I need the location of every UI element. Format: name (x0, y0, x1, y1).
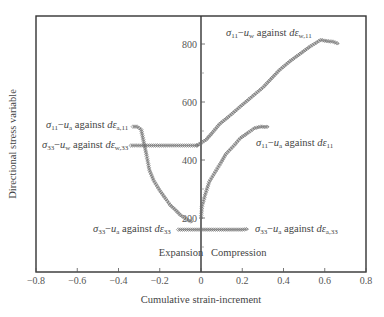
x-axis-title: Cumulative strain-increment (141, 294, 262, 305)
x-tick-label: −0.4 (109, 275, 127, 286)
annotation-s11-ua-de11: σ11−ua against dε11 (256, 137, 334, 150)
annotation-s33-ua-dea33: σ33−ua against dεa,33 (255, 223, 338, 236)
annotation-s33-ua-de33: σ33−ua against dε33 (93, 223, 171, 236)
series-3 (129, 144, 199, 148)
annotation-s33-uw-dew33: σ33−uw against dεw,33 (42, 139, 129, 152)
x-tick-label: 0.6 (319, 275, 332, 286)
series-5 (199, 227, 248, 231)
x-tick-label: −0.6 (68, 275, 86, 286)
x-tick-label: 0.2 (236, 275, 249, 286)
series-2 (131, 125, 193, 223)
data-series (129, 38, 339, 231)
expansion-label: Expansion (159, 247, 204, 258)
y-tick-label: 600 (182, 97, 197, 108)
y-tick-label: 400 (182, 155, 197, 166)
series-4 (176, 228, 201, 232)
x-tick-label: 0 (199, 275, 204, 286)
x-tick-label: 0.4 (277, 275, 290, 286)
y-tick-label: 800 (182, 39, 197, 50)
x-tick-label: −0.8 (27, 275, 45, 286)
annotation-s11-uw-dew11: σ11−uw against dεw,11 (226, 27, 312, 40)
series-0 (195, 38, 339, 147)
compression-label: Compression (211, 247, 267, 258)
x-tick-label: 0.8 (360, 275, 373, 286)
annotation-s11-ua-dea11: σ11−ua against dεa,11 (46, 119, 129, 132)
x-axis-ticks: −0.8−0.6−0.4−0.200.20.40.60.8 (27, 268, 372, 286)
x-tick-label: −0.2 (151, 275, 169, 286)
y-axis-title: Directional stress variable (7, 89, 18, 199)
chart: −0.8−0.6−0.4−0.200.20.40.60.8 2004006008… (0, 0, 384, 317)
